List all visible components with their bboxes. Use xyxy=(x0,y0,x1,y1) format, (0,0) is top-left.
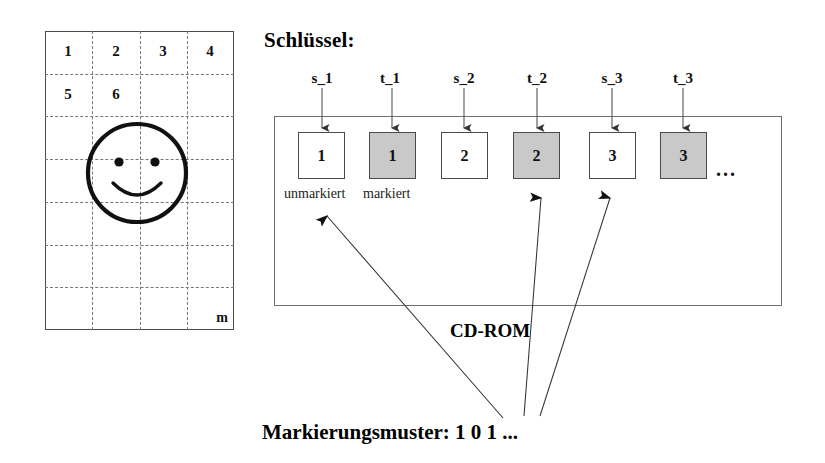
key-label-s2: s_2 xyxy=(444,70,484,87)
grid-hline-2 xyxy=(45,116,234,117)
legend-unmarkiert: unmarkiert xyxy=(284,186,345,202)
key-label-t3: t_3 xyxy=(663,70,703,87)
legend-markiert: markiert xyxy=(363,186,410,202)
grid-cell-4: 4 xyxy=(195,43,225,60)
diagram-canvas: 1 2 3 4 5 6 m Schlüssel: s_1 t_1 s_2 t_2… xyxy=(0,0,825,463)
grid-cell-1: 1 xyxy=(53,43,83,60)
schluessel-title: Schlüssel: xyxy=(264,28,355,53)
cdrom-slot-t1[interactable]: 1 xyxy=(369,132,416,179)
cdrom-slot-s1[interactable]: 1 xyxy=(298,132,345,179)
cdrom-slot-t3[interactable]: 3 xyxy=(660,132,707,179)
markierungsmuster-caption: Markierungsmuster: 1 0 1 ... xyxy=(262,420,518,445)
grid-hline-6 xyxy=(45,287,234,288)
smiley-face-icon xyxy=(83,119,191,227)
cdrom-slot-s2[interactable]: 2 xyxy=(441,132,488,179)
grid-cell-3: 3 xyxy=(148,43,178,60)
cdrom-ellipsis: ... xyxy=(716,158,737,181)
key-label-t2: t_2 xyxy=(517,70,557,87)
key-label-t1: t_1 xyxy=(370,70,410,87)
grid-cell-6: 6 xyxy=(101,86,131,103)
grid-hline-1 xyxy=(45,74,234,75)
cdrom-caption: CD-ROM xyxy=(450,320,530,342)
image-grid-panel: 1 2 3 4 5 6 m xyxy=(45,31,234,330)
grid-cell-2: 2 xyxy=(101,43,131,60)
grid-hline-5 xyxy=(45,245,234,246)
key-label-s1: s_1 xyxy=(302,70,342,87)
grid-cell-5: 5 xyxy=(53,86,83,103)
cdrom-slot-t2[interactable]: 2 xyxy=(513,132,560,179)
cdrom-slot-s3[interactable]: 3 xyxy=(589,132,636,179)
key-label-s3: s_3 xyxy=(592,70,632,87)
grid-corner-label-m: m xyxy=(216,310,228,326)
